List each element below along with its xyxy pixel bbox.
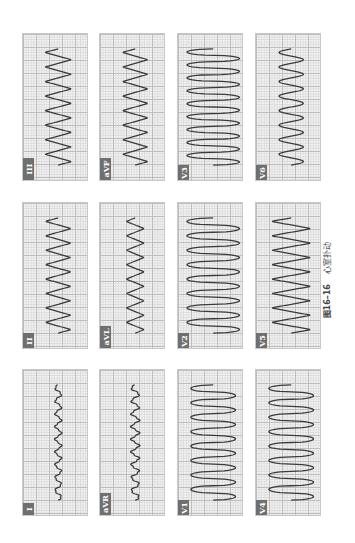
ecg-panel-ii: II <box>22 202 88 349</box>
lead-label: aVR <box>100 493 111 515</box>
lead-label: III <box>23 158 34 180</box>
ecg-trace <box>256 370 320 515</box>
lead-label: V2 <box>178 333 189 348</box>
lead-label: V3 <box>178 165 189 180</box>
ecg-panel-v1: V1 <box>177 369 243 516</box>
ecg-panel-avl: aVL <box>99 202 165 349</box>
ecg-panel-i: I <box>22 369 88 516</box>
figure-caption: 图16–16 心室扑动 <box>321 242 332 319</box>
ecg-trace <box>256 34 320 180</box>
ecg-trace <box>178 370 242 515</box>
ecg-panel-avf: aVF <box>99 33 165 181</box>
ecg-panel-v4: V4 <box>255 369 321 516</box>
ecg-panel-avr: aVR <box>99 369 165 516</box>
lead-label: II <box>23 333 34 348</box>
lead-label: V4 <box>256 500 267 515</box>
ecg-panel-v3: V3 <box>177 33 243 181</box>
ecg-panel-v6: V6 <box>255 33 321 181</box>
ecg-panel-iii: III <box>22 33 88 181</box>
lead-label: I <box>23 503 34 515</box>
figure-number: 图16–16 <box>323 284 332 318</box>
lead-label: aVL <box>100 326 111 348</box>
ecg-trace <box>23 203 87 348</box>
lead-label: V6 <box>256 165 267 180</box>
ecg-panel-v2: V2 <box>177 202 243 349</box>
ecg-trace <box>256 203 320 348</box>
ecg-trace <box>23 370 87 515</box>
ecg-trace <box>178 34 242 180</box>
lead-label: aVF <box>100 158 111 180</box>
lead-label: V5 <box>256 333 267 348</box>
figure-title: 心室扑动 <box>323 242 332 274</box>
ecg-panel-v5: V5 <box>255 202 321 349</box>
ecg-trace <box>178 203 242 348</box>
lead-label: V1 <box>178 500 189 515</box>
